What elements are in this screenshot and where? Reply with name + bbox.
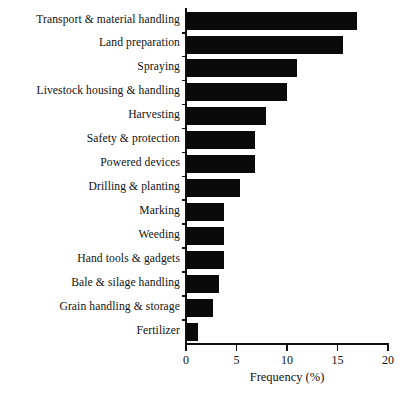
bar	[186, 323, 198, 341]
category-label: Fertilizer	[0, 325, 180, 337]
x-axis-tick	[185, 344, 187, 351]
category-label-group: Transport & material handlingLand prepar…	[0, 8, 180, 343]
bar-row	[186, 8, 388, 33]
x-axis-title: Frequency (%)	[186, 370, 388, 385]
bar-row	[186, 104, 388, 129]
bar	[186, 155, 255, 173]
category-label: Spraying	[0, 61, 180, 73]
category-label: Harvesting	[0, 109, 180, 121]
bar	[186, 275, 219, 293]
bar-chart: Transport & material handlingLand prepar…	[0, 0, 406, 400]
category-label: Bale & silage handling	[0, 277, 180, 289]
y-axis-tick	[182, 319, 187, 321]
bar	[186, 107, 266, 125]
bar-row	[186, 56, 388, 81]
x-axis-tick	[387, 344, 389, 351]
bar-row	[186, 247, 388, 272]
category-label: Safety & protection	[0, 133, 180, 145]
bar	[186, 179, 240, 197]
y-axis-tick	[182, 32, 187, 34]
y-axis-tick	[182, 176, 187, 178]
bar-row	[186, 80, 388, 105]
y-axis-tick	[182, 128, 187, 130]
x-axis-tick	[286, 344, 288, 351]
x-axis-tick-label: 15	[323, 353, 353, 367]
y-axis-tick	[182, 295, 187, 297]
category-label: Drilling & planting	[0, 181, 180, 193]
y-axis-tick	[182, 247, 187, 249]
bar	[186, 83, 287, 101]
bar	[186, 131, 255, 149]
bar	[186, 251, 224, 269]
bar	[186, 227, 224, 245]
bar-row	[186, 223, 388, 248]
category-label: Marking	[0, 205, 180, 217]
bar-row	[186, 199, 388, 224]
y-axis-tick	[182, 271, 187, 273]
y-axis-tick	[182, 152, 187, 154]
plot-area	[186, 8, 388, 343]
bar	[186, 36, 343, 54]
x-axis-tick-label: 10	[272, 353, 302, 367]
y-axis-tick	[182, 104, 187, 106]
bar	[186, 12, 357, 30]
y-axis-tick	[182, 199, 187, 201]
bar	[186, 59, 297, 77]
category-label: Livestock housing & handling	[0, 85, 180, 97]
y-axis-tick	[182, 80, 187, 82]
bar-row	[186, 176, 388, 201]
bar-row	[186, 152, 388, 177]
bar	[186, 203, 224, 221]
x-axis-tick	[236, 344, 238, 351]
category-label: Weeding	[0, 229, 180, 241]
category-label: Grain handling & storage	[0, 301, 180, 313]
x-axis-tick	[337, 344, 339, 351]
y-axis-tick	[182, 223, 187, 225]
y-axis-tick	[182, 56, 187, 58]
x-axis-tick-label: 0	[171, 353, 201, 367]
bar-row	[186, 271, 388, 296]
bar	[186, 299, 213, 317]
category-label: Hand tools & gadgets	[0, 253, 180, 265]
bar-row	[186, 32, 388, 57]
bar-row	[186, 295, 388, 320]
category-label: Powered devices	[0, 157, 180, 169]
category-label: Transport & material handling	[0, 14, 180, 26]
x-axis-tick-label: 5	[222, 353, 252, 367]
bar-row	[186, 128, 388, 153]
category-label: Land preparation	[0, 37, 180, 49]
x-axis-tick-label: 20	[373, 353, 403, 367]
bar-row	[186, 319, 388, 344]
